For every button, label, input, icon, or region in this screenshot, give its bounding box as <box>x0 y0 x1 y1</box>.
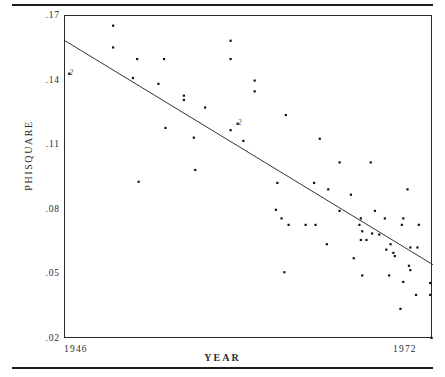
data-point <box>254 90 256 92</box>
data-point <box>384 217 386 219</box>
y-axis-tick-label: .08 <box>18 204 60 214</box>
data-points-group <box>68 25 433 339</box>
data-point <box>418 224 420 226</box>
x-axis-title: YEAR <box>0 352 445 363</box>
y-axis-tick-label: .05 <box>18 268 60 278</box>
data-point <box>370 161 372 163</box>
data-point <box>194 169 196 171</box>
data-point <box>409 246 411 248</box>
y-axis-tick-label: .02 <box>18 333 60 343</box>
regression-line <box>65 41 433 265</box>
data-point <box>389 243 391 245</box>
data-point <box>361 230 363 232</box>
data-point <box>392 252 394 254</box>
y-axis-tick-label: .14 <box>18 75 60 85</box>
data-point <box>280 217 282 219</box>
data-point <box>338 210 340 212</box>
data-point <box>353 257 355 259</box>
data-point <box>193 137 195 139</box>
data-point <box>429 282 431 284</box>
data-point <box>402 281 404 283</box>
data-point <box>409 269 411 271</box>
data-point <box>132 77 134 79</box>
data-point <box>305 224 307 226</box>
data-point <box>374 210 376 212</box>
data-point <box>276 182 278 184</box>
data-point <box>378 233 380 235</box>
figure-page: PHISQUARE .17.14.11.08.05.02 1946 1972 Y… <box>0 0 445 377</box>
data-point <box>204 106 206 108</box>
data-point <box>254 80 256 82</box>
data-point <box>365 239 367 241</box>
data-point <box>164 127 166 129</box>
data-point <box>360 239 362 241</box>
data-point <box>429 294 431 296</box>
data-point <box>163 58 165 60</box>
data-point <box>112 46 114 48</box>
overplot-count-label: 2 <box>69 69 73 77</box>
data-point <box>230 58 232 60</box>
data-point <box>285 114 287 116</box>
data-point <box>371 232 373 234</box>
plot-area <box>65 16 431 337</box>
data-point <box>230 40 232 42</box>
data-point <box>288 224 290 226</box>
data-point <box>430 337 432 339</box>
data-point <box>399 308 401 310</box>
data-point <box>136 58 138 60</box>
data-point <box>338 161 340 163</box>
data-point <box>230 129 232 131</box>
y-axis-tick-label: .17 <box>18 10 60 20</box>
y-axis-tick-labels: .17.14.11.08.05.02 <box>8 0 60 377</box>
data-point <box>319 138 321 140</box>
data-point <box>183 99 185 101</box>
data-point <box>401 224 403 226</box>
data-point <box>138 181 140 183</box>
data-point <box>183 95 185 97</box>
data-point <box>358 224 360 226</box>
plot-frame <box>64 15 432 338</box>
plot-canvas <box>65 16 433 339</box>
data-point <box>402 217 404 219</box>
data-point <box>275 209 277 211</box>
overplot-count-label: 2 <box>238 119 242 127</box>
scatter-plot-figure: PHISQUARE .17.14.11.08.05.02 1946 1972 Y… <box>0 0 445 377</box>
data-point <box>388 274 390 276</box>
data-point <box>394 255 396 257</box>
y-axis-tick-label: .11 <box>18 139 60 149</box>
data-point <box>361 274 363 276</box>
data-point <box>415 294 417 296</box>
data-point <box>327 188 329 190</box>
data-point <box>416 246 418 248</box>
data-point <box>283 271 285 273</box>
data-point <box>112 25 114 27</box>
data-point <box>313 182 315 184</box>
data-point <box>408 265 410 267</box>
data-point <box>242 140 244 142</box>
data-point <box>326 243 328 245</box>
data-point <box>350 194 352 196</box>
data-point <box>385 249 387 251</box>
data-point <box>360 217 362 219</box>
data-point <box>406 188 408 190</box>
data-point <box>314 224 316 226</box>
data-point <box>157 83 159 85</box>
